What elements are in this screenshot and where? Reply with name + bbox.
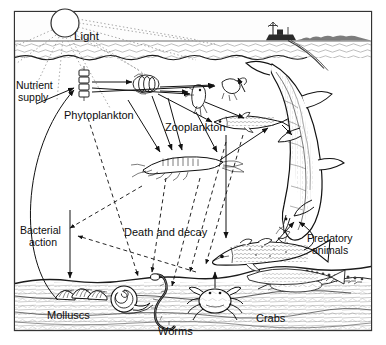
label-bacterial: Bacterial — [20, 225, 61, 236]
mollusc-shells — [56, 289, 107, 300]
label-phytoplankton: Phytoplankton — [64, 110, 134, 122]
label-worms: Worms — [158, 326, 193, 338]
label-zooplankton: Zooplankton — [165, 122, 226, 134]
label-nutrient-supply: supply — [18, 92, 48, 103]
label-light: Light — [74, 30, 99, 42]
label-crabs: Crabs — [256, 313, 285, 325]
label-predatory-animals: animals — [312, 245, 348, 256]
label-death-and-decay: Death and decay — [124, 227, 207, 239]
sea-surface-band — [15, 41, 371, 60]
label-bacterial-action: action — [29, 237, 57, 248]
label-nutrient: Nutrient — [16, 80, 53, 91]
food-web-illustration — [0, 0, 386, 345]
label-molluscs: Molluscs — [47, 310, 90, 322]
label-predatory: Predatory — [307, 233, 353, 244]
diagram-canvas: Light Nutrient supply Phytoplankton Zoop… — [0, 0, 386, 345]
